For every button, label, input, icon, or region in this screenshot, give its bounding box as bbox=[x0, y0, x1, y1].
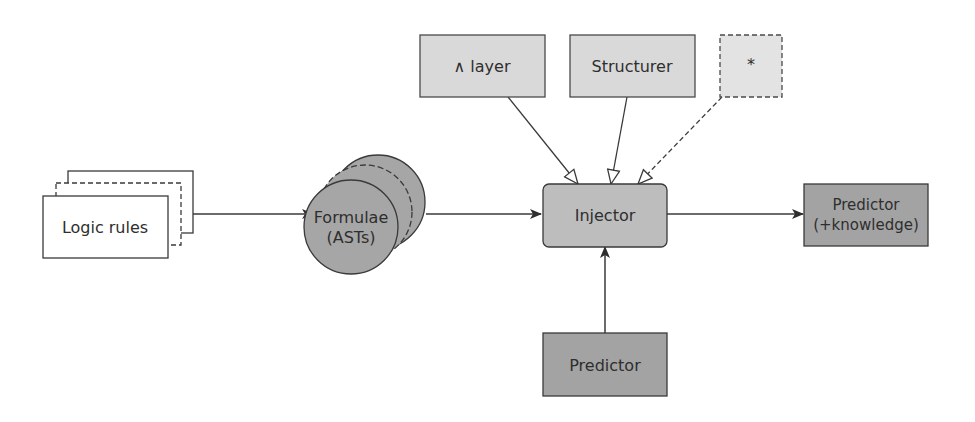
predictor-knowledge-label-line1: Predictor bbox=[832, 196, 900, 214]
diagram-canvas: Logic rules Formulae (ASTs) ∧ layer Stru… bbox=[0, 0, 975, 422]
edge-star-to-injector bbox=[638, 97, 722, 184]
and-layer-label: ∧ layer bbox=[454, 57, 511, 76]
predictor-label: Predictor bbox=[569, 356, 641, 375]
formulae-front-circle bbox=[304, 180, 398, 274]
node-and-layer: ∧ layer bbox=[420, 35, 545, 97]
node-injector: Injector bbox=[543, 184, 667, 247]
node-predictor: Predictor bbox=[543, 333, 667, 396]
predictor-knowledge-label-line2: (+knowledge) bbox=[813, 216, 919, 234]
star-label: * bbox=[747, 55, 755, 74]
injector-label: Injector bbox=[575, 206, 636, 225]
logic-rules-label: Logic rules bbox=[62, 218, 148, 237]
node-predictor-knowledge: Predictor (+knowledge) bbox=[804, 184, 928, 246]
formulae-label-line2: (ASTs) bbox=[326, 228, 375, 247]
formulae-label-line1: Formulae bbox=[314, 208, 389, 227]
node-formulae: Formulae (ASTs) bbox=[304, 155, 425, 274]
node-star: * bbox=[720, 35, 782, 97]
edge-structurer-to-injector bbox=[611, 97, 627, 184]
node-structurer: Structurer bbox=[570, 35, 695, 97]
edge-and-layer-to-injector bbox=[508, 97, 578, 184]
node-logic-rules: Logic rules bbox=[43, 171, 193, 258]
edges bbox=[187, 97, 803, 333]
structurer-label: Structurer bbox=[591, 57, 672, 76]
